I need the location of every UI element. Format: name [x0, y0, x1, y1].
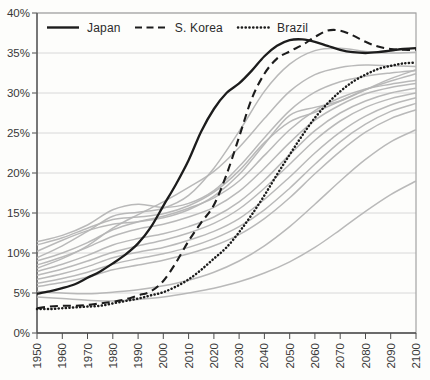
x-tick-label: 2010 — [183, 343, 195, 369]
gridlines — [37, 13, 416, 293]
x-tick-label: 2070 — [334, 343, 346, 369]
chart-legend: Japan S. Korea Brazil — [46, 21, 308, 34]
legend-item-brazil: Brazil — [236, 21, 308, 34]
solid-line-icon — [46, 24, 80, 31]
x-tick-label: 2000 — [157, 343, 169, 369]
x-tick-label: 2060 — [309, 343, 321, 369]
legend-label-japan: Japan — [87, 21, 121, 34]
aging-population-chart: 0%5%10%15%20%25%30%35%40%195019601970198… — [0, 0, 430, 380]
x-tick-label: 2040 — [258, 343, 270, 369]
legend-label-s-korea: S. Korea — [175, 21, 223, 34]
y-tick-label: 35% — [7, 47, 30, 59]
y-tick-label: 15% — [7, 207, 30, 219]
y-tick-label: 40% — [7, 7, 30, 19]
y-tick-label: 5% — [13, 287, 30, 299]
y-tick-label: 0% — [13, 327, 30, 339]
series-other-12 — [37, 110, 416, 287]
y-tick-label: 25% — [7, 127, 30, 139]
x-tick-label: 1970 — [82, 343, 94, 369]
x-tick-label: 2080 — [360, 343, 372, 369]
x-tick-label: 2100 — [410, 343, 422, 369]
series-other-13 — [37, 130, 416, 294]
y-axis: 0%5%10%15%20%25%30%35%40% — [7, 7, 37, 339]
dotted-line-icon — [236, 24, 270, 31]
y-tick-label: 10% — [7, 247, 30, 259]
x-tick-label: 1990 — [132, 343, 144, 369]
y-tick-label: 20% — [7, 167, 30, 179]
x-tick-label: 2050 — [284, 343, 296, 369]
x-tick-label: 1960 — [56, 343, 68, 369]
series-other-11 — [37, 103, 416, 283]
x-tick-label: 2030 — [233, 343, 245, 369]
legend-label-brazil: Brazil — [277, 21, 308, 34]
dashed-line-icon — [134, 24, 168, 31]
legend-item-s-korea: S. Korea — [134, 21, 223, 34]
legend-item-japan: Japan — [46, 21, 121, 34]
x-axis: 1950196019701980199020002010202020302040… — [31, 333, 422, 369]
x-tick-label: 1980 — [107, 343, 119, 369]
series-lines — [37, 30, 416, 309]
y-tick-label: 30% — [7, 87, 30, 99]
x-tick-label: 1950 — [31, 343, 43, 369]
plot-area: 0%5%10%15%20%25%30%35%40%195019601970198… — [0, 0, 430, 380]
x-tick-label: 2020 — [208, 343, 220, 369]
x-tick-label: 2090 — [385, 343, 397, 369]
